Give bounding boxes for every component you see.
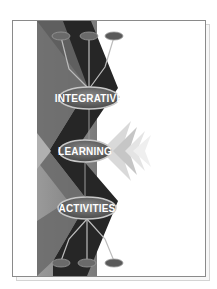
learning-badge: LEARNING bbox=[58, 140, 112, 162]
bottom-ellipse-right bbox=[105, 259, 123, 267]
activities-badge: ACTIVITIES bbox=[58, 197, 116, 219]
bottom-ellipse-center bbox=[78, 259, 96, 267]
label-learning: LEARNING bbox=[58, 146, 112, 157]
document-page: INTEGRATIVE LEARNING ACTIVITIES bbox=[12, 20, 206, 277]
top-ellipse-right bbox=[105, 32, 123, 40]
label-activities: ACTIVITIES bbox=[58, 203, 115, 214]
label-integrative: INTEGRATIVE bbox=[55, 93, 124, 104]
top-ellipse-center bbox=[80, 32, 98, 40]
top-ellipse-left bbox=[52, 32, 70, 40]
cover-artwork: INTEGRATIVE LEARNING ACTIVITIES bbox=[13, 21, 205, 276]
bottom-ellipse-left bbox=[52, 259, 70, 267]
